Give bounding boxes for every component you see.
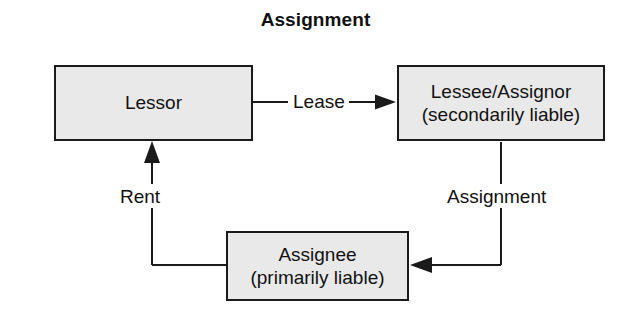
- edge-label-rent: Rent: [116, 186, 164, 207]
- node-lessor-label: Lessor: [125, 91, 182, 114]
- diagram-canvas: Assignment Lessor Lessee/Assignor: [0, 0, 631, 329]
- edge-label-lease: Lease: [289, 91, 349, 112]
- arrowhead-rent: [144, 141, 160, 163]
- arrowhead-lease: [375, 95, 396, 110]
- node-lessor[interactable]: Lessor: [54, 65, 253, 141]
- node-lessee-assignor-sublabel: (secondarily liable): [422, 103, 580, 126]
- node-assignee[interactable]: Assignee (primarily liable): [226, 231, 409, 301]
- node-lessee-assignor-label: Lessee/Assignor: [431, 80, 571, 103]
- node-lessee-assignor[interactable]: Lessee/Assignor (secondarily liable): [397, 65, 605, 141]
- node-assignee-label: Assignee: [278, 243, 356, 266]
- node-assignee-sublabel: (primarily liable): [250, 266, 384, 289]
- arrowhead-assignment: [410, 257, 432, 273]
- edge-label-assignment: Assignment: [443, 186, 550, 207]
